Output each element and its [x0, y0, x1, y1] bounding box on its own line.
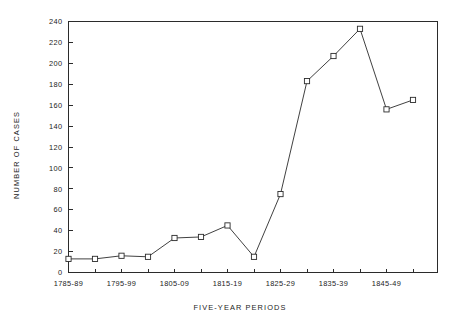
data-point-marker: [410, 97, 415, 102]
y-axis-tick-label: 100: [49, 164, 62, 173]
y-axis-tick-label: 60: [54, 205, 63, 214]
data-point-marker: [331, 53, 336, 58]
y-axis-tick-label: 160: [49, 101, 62, 110]
data-series-markers: [66, 26, 416, 261]
data-point-marker: [172, 235, 177, 240]
x-axis-tick-label: 1795-99: [107, 279, 137, 288]
chart-container: 020406080100120140160180200220240 1785-8…: [0, 0, 456, 325]
y-axis-tick-label: 20: [54, 247, 63, 256]
x-axis-tick-label: 1815-19: [213, 279, 243, 288]
data-point-marker: [357, 26, 362, 31]
y-axis-tick-label: 180: [49, 80, 62, 89]
data-point-marker: [384, 107, 389, 112]
data-point-marker: [66, 256, 71, 261]
data-point-marker: [198, 234, 203, 239]
x-axis-tick-label: 1805-09: [160, 279, 190, 288]
data-point-marker: [251, 254, 256, 259]
data-point-marker: [278, 191, 283, 196]
x-axis-ticks: [69, 269, 438, 273]
x-axis-tick-label: 1845-49: [372, 279, 402, 288]
x-axis-title: FIVE-YEAR PERIODS: [193, 303, 286, 312]
data-point-marker: [119, 253, 124, 258]
y-axis-ticks: [69, 22, 73, 273]
y-axis-tick-label: 40: [54, 226, 63, 235]
data-point-marker: [145, 254, 150, 259]
plot-frame: [69, 22, 438, 273]
y-axis-tick-label: 200: [49, 59, 62, 68]
y-axis-tick-label: 120: [49, 143, 62, 152]
x-axis-tick-label: 1835-39: [319, 279, 349, 288]
y-axis-title: NUMBER OF CASES: [12, 111, 21, 199]
data-point-marker: [92, 256, 97, 261]
y-axis-tick-label: 140: [49, 122, 62, 131]
y-axis-tick-label: 220: [49, 38, 62, 47]
line-chart: 020406080100120140160180200220240 1785-8…: [0, 0, 456, 325]
y-axis-tick-label: 0: [58, 268, 62, 277]
y-axis-tick-label: 240: [49, 17, 62, 26]
data-series-line: [69, 29, 414, 259]
y-axis-tick-label: 80: [54, 185, 63, 194]
x-axis-tick-labels: 1785-891795-991805-091815-191825-291835-…: [54, 279, 402, 288]
x-axis-tick-label: 1785-89: [54, 279, 84, 288]
x-axis-tick-label: 1825-29: [266, 279, 296, 288]
data-point-marker: [225, 223, 230, 228]
y-axis-tick-labels: 020406080100120140160180200220240: [49, 17, 62, 277]
data-point-marker: [304, 79, 309, 84]
